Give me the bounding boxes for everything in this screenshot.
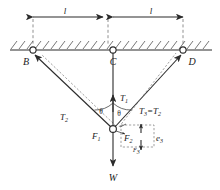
statics-diagram: l l bbox=[0, 0, 220, 190]
label-f1: F1 bbox=[91, 131, 101, 142]
node-c bbox=[110, 47, 116, 53]
label-theta-left: θ bbox=[99, 107, 103, 116]
dimension-group: l l bbox=[33, 6, 183, 45]
hatching bbox=[11, 41, 209, 49]
label-c: C bbox=[110, 56, 117, 67]
label-b: B bbox=[23, 56, 29, 67]
label-e3: e3 bbox=[156, 133, 163, 144]
node-group bbox=[30, 47, 186, 132]
label-d: D bbox=[187, 56, 196, 67]
label-f3: F3 bbox=[132, 147, 140, 155]
figure-container: l l bbox=[0, 0, 220, 190]
label-w: W bbox=[109, 172, 119, 183]
label-t1: T1 bbox=[120, 93, 128, 104]
cable-right-t3 bbox=[114, 55, 181, 128]
node-d bbox=[180, 47, 186, 53]
label-t2: T2 bbox=[60, 112, 68, 123]
angle-arc-left bbox=[95, 103, 114, 110]
angle-arc-right bbox=[113, 103, 132, 110]
label-t3: T3=T2 bbox=[139, 106, 161, 117]
dimension-label-right: l bbox=[150, 6, 153, 16]
cable-left-t2-secondary bbox=[41, 54, 116, 126]
label-f2: F2 bbox=[123, 133, 133, 144]
dimension-label-left: l bbox=[64, 6, 67, 16]
label-theta-right: θ bbox=[117, 109, 121, 118]
cable-left-t2 bbox=[35, 55, 112, 128]
node-b bbox=[30, 47, 36, 53]
node-junction bbox=[110, 126, 117, 133]
